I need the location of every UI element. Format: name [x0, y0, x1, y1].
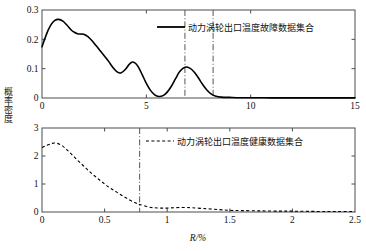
tick-label-x: 0 [40, 215, 45, 225]
bottom-chart-panel: 0123 00.511.522.5 动力涡轮出口温度健康数据集合 R/% [22, 124, 366, 248]
tick-label-y: 0 [34, 207, 39, 217]
top-chart-svg: 00.10.20.3 051015 动力涡轮出口温度故障数据集合 [22, 6, 366, 116]
top-chart-legend-label: 动力涡轮出口温度故障数据集合 [188, 22, 314, 33]
tick-label-y: 0.2 [27, 35, 39, 45]
tick-label-x: 2.5 [349, 215, 361, 225]
tick-label-x: 1 [165, 215, 170, 225]
y-axis-label: 概率密度 [0, 70, 13, 140]
tick-label-x: 0.5 [99, 215, 111, 225]
top-chart-xticklabels: 051015 [40, 101, 360, 111]
tick-label-y: 1 [34, 179, 39, 189]
tick-label-y: 0.3 [27, 6, 39, 15]
tick-label-x: 2 [290, 215, 295, 225]
bottom-chart-svg: 0123 00.511.522.5 动力涡轮出口温度健康数据集合 R/% [22, 124, 366, 248]
top-chart-yticklabels: 00.10.20.3 [27, 6, 39, 103]
bottom-chart-data-curve [42, 143, 355, 211]
x-axis-label: R/% [189, 233, 206, 243]
bottom-chart-yticklabels: 0123 [34, 124, 39, 217]
tick-label-x: 1.5 [224, 215, 236, 225]
figure-container: 概率密度 00.10.20.3 051015 动力涡轮出口温度故障数据集合 01… [0, 0, 366, 251]
tick-label-x: 15 [350, 101, 360, 111]
tick-label-y: 2 [34, 151, 39, 161]
tick-label-y: 0.1 [27, 64, 39, 74]
top-chart-panel: 00.10.20.3 051015 动力涡轮出口温度故障数据集合 [22, 6, 366, 116]
bottom-chart-legend-label: 动力涡轮出口温度健康数据集合 [177, 136, 303, 147]
tick-label-x: 10 [246, 101, 256, 111]
tick-label-x: 5 [144, 101, 149, 111]
bottom-chart-xticklabels: 00.511.522.5 [40, 215, 362, 225]
tick-label-y: 0 [34, 93, 39, 103]
tick-label-y: 3 [34, 124, 39, 133]
tick-label-x: 0 [40, 101, 45, 111]
